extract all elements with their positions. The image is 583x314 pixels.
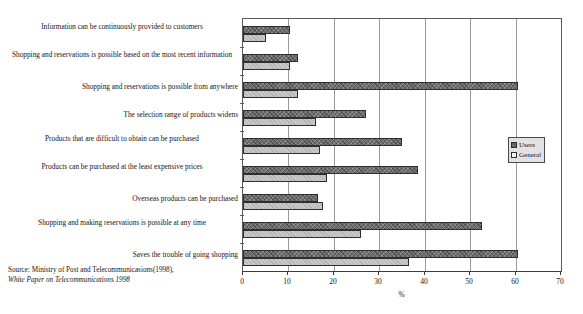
bar-general xyxy=(243,90,298,98)
bar-group xyxy=(243,187,561,215)
x-axis-tick-label: 70 xyxy=(545,277,575,286)
legend-label: General xyxy=(519,151,541,159)
bar-users xyxy=(243,54,298,62)
bar-users xyxy=(243,250,518,258)
x-axis-tick-60 xyxy=(515,271,516,275)
bar-group xyxy=(243,243,561,271)
bar-group xyxy=(243,47,561,75)
y-axis-tick xyxy=(240,75,244,76)
bar-general xyxy=(243,118,316,126)
category-label: Products can be purchased at the least e… xyxy=(6,162,238,171)
x-axis-tick-label: 20 xyxy=(318,277,348,286)
y-axis-tick xyxy=(240,187,244,188)
bar-group xyxy=(243,215,561,243)
bar-users xyxy=(243,26,290,34)
bar-chart: Information can be continuously provided… xyxy=(0,0,583,314)
y-axis-tick xyxy=(240,159,244,160)
category-label: The selection range of products widens xyxy=(6,110,238,119)
bar-general xyxy=(243,62,290,70)
category-label: Shopping and reservations is possible ba… xyxy=(6,50,238,59)
legend-swatch-icon xyxy=(511,142,517,148)
x-axis-tick-label: 50 xyxy=(454,277,484,286)
bar-users xyxy=(243,194,318,202)
category-label: Overseas products can be purchased xyxy=(6,194,238,203)
bar-general xyxy=(243,202,323,210)
bar-general xyxy=(243,146,320,154)
y-axis-tick xyxy=(240,103,244,104)
source-note: Source: Ministry of Post and Telecommuni… xyxy=(8,266,243,285)
category-label: Shopping and making reservations is poss… xyxy=(6,218,238,227)
category-label: Saves the trouble of going shopping xyxy=(6,250,238,259)
legend-item: Users xyxy=(511,140,541,150)
bar-group xyxy=(243,75,561,103)
x-axis-tick-label: 30 xyxy=(363,277,393,286)
y-axis-tick xyxy=(240,243,244,244)
x-axis-tick-30 xyxy=(378,271,379,275)
chart-title xyxy=(150,0,450,2)
legend-swatch-icon xyxy=(511,152,517,158)
legend-label: Users xyxy=(519,141,535,149)
x-axis-title: % xyxy=(242,290,561,299)
bar-general xyxy=(243,230,361,238)
bar-group xyxy=(243,19,561,47)
bar-users xyxy=(243,110,366,118)
y-axis-tick xyxy=(240,47,244,48)
source-line-2: White Paper on Telecommunications 1998 xyxy=(8,276,243,286)
category-label: Information can be continuously provided… xyxy=(6,22,238,31)
category-label-column: Information can be continuously provided… xyxy=(6,18,238,270)
source-line-1: Source: Ministry of Post and Telecommuni… xyxy=(8,266,243,276)
x-axis-tick-label: 0 xyxy=(227,277,257,286)
x-axis-tick-70 xyxy=(560,271,561,275)
x-axis-line xyxy=(242,271,561,272)
bar-group xyxy=(243,159,561,187)
x-axis-tick-label: 40 xyxy=(409,277,439,286)
bar-general xyxy=(243,174,327,182)
bar-users xyxy=(243,138,402,146)
bar-users xyxy=(243,222,482,230)
bar-general xyxy=(243,258,409,266)
bar-general xyxy=(243,34,266,42)
x-axis-tick-50 xyxy=(469,271,470,275)
x-axis-tick-40 xyxy=(424,271,425,275)
y-axis-tick xyxy=(240,131,244,132)
bar-users xyxy=(243,82,518,90)
x-axis-tick-20 xyxy=(333,271,334,275)
y-axis-tick xyxy=(240,215,244,216)
x-axis-tick-label: 10 xyxy=(272,277,302,286)
bar-group xyxy=(243,103,561,131)
legend-item: General xyxy=(511,150,541,160)
x-axis-tick-0 xyxy=(242,271,243,275)
category-label: Shopping and reservations is possible fr… xyxy=(6,82,238,91)
category-label: Products that are difficult to obtain ca… xyxy=(6,134,238,143)
x-axis-tick-label: 60 xyxy=(500,277,530,286)
chart-legend: UsersGeneral xyxy=(508,137,545,163)
x-axis-tick-10 xyxy=(287,271,288,275)
bar-users xyxy=(243,166,418,174)
